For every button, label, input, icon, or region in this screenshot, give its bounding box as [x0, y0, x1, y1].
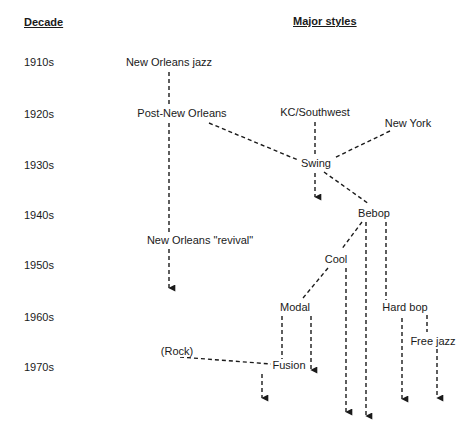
- node-post-new-orleans: Post-New Orleans: [136, 107, 227, 119]
- node-hard-bop: Hard bop: [381, 301, 428, 313]
- decade-label: 1930s: [24, 159, 54, 171]
- node-bebop: Bebop: [357, 207, 391, 219]
- node-cool: Cool: [324, 253, 349, 265]
- edge-rock-fusion: [180, 357, 271, 364]
- node-fusion: Fusion: [271, 359, 306, 371]
- node-rock: (Rock): [160, 345, 194, 357]
- edge-swing-bebop: [324, 172, 369, 204]
- edge-modal-fusion: [277, 316, 282, 362]
- edge-postno-swing: [209, 123, 298, 160]
- styles-column-header: Major styles: [293, 15, 357, 27]
- node-kc-southwest: KC/Southwest: [279, 106, 351, 118]
- node-swing: Swing: [300, 157, 332, 169]
- node-new-york: New York: [384, 117, 432, 129]
- edge-cool-modal: [303, 268, 328, 298]
- decade-label: 1910s: [24, 56, 54, 68]
- node-free-jazz: Free jazz: [409, 335, 456, 347]
- decade-label: 1940s: [24, 209, 54, 221]
- decade-label: 1960s: [24, 311, 54, 323]
- decade-label: 1950s: [24, 259, 54, 271]
- decade-label: 1970s: [24, 361, 54, 373]
- node-new-orleans-revival: New Orleans "revival": [146, 234, 254, 246]
- edge-ny-swing: [334, 131, 390, 158]
- connector-layer: [0, 0, 473, 424]
- node-modal: Modal: [279, 301, 311, 313]
- decade-label: 1920s: [24, 108, 54, 120]
- node-new-orleans-jazz: New Orleans jazz: [125, 56, 213, 68]
- decade-column-header: Decade: [24, 16, 63, 28]
- edge-bebop-cool: [341, 222, 362, 250]
